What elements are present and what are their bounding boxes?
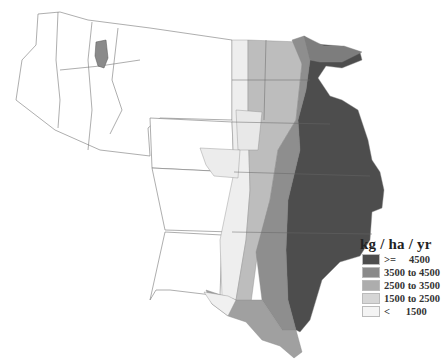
region-colorado: [152, 168, 234, 232]
legend-item: 3500 to 4500: [362, 266, 444, 279]
legend-label: >= 4500: [384, 254, 430, 265]
legend-swatch: [362, 254, 380, 265]
legend-item: < 1500: [362, 305, 444, 318]
legend-swatch: [362, 267, 380, 278]
legend: kg / ha / yr >= 4500 3500 to 4500 2500 t…: [362, 236, 444, 318]
legend-item: 1500 to 2500: [362, 292, 444, 305]
legend-title: kg / ha / yr: [360, 236, 444, 253]
legend-item: >= 4500: [362, 253, 444, 266]
legend-label: 3500 to 4500: [384, 267, 440, 278]
legend-item: 2500 to 3500: [362, 279, 444, 292]
legend-label: 1500 to 2500: [384, 293, 440, 304]
region-new-mexico: [150, 232, 222, 300]
legend-swatch: [362, 293, 380, 304]
legend-label: < 1500: [384, 306, 427, 317]
legend-swatch: [362, 280, 380, 291]
legend-swatch: [362, 306, 380, 317]
legend-label: 2500 to 3500: [384, 280, 440, 291]
